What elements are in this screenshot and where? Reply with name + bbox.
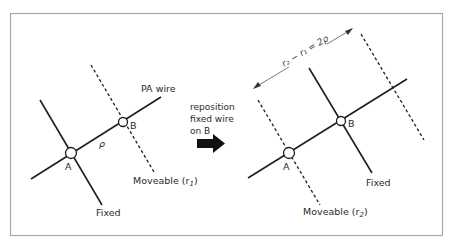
transition-line-2: fixed wire (190, 114, 234, 124)
node-b-circle (337, 117, 346, 126)
dimension-arrowhead-left (253, 82, 261, 89)
fixed-label: Fixed (366, 177, 391, 188)
node-a-label: A (283, 161, 290, 172)
node-b-label: B (130, 120, 137, 131)
right-panel: r₂ − r₁ = 2ρ B A Fixed Moveable (r2) (248, 28, 424, 219)
pa-wire (248, 79, 407, 178)
dimension-label: r₂ − r₁ = 2ρ (280, 33, 330, 69)
right-arrow-icon (197, 134, 225, 153)
transition: reposition fixed wire on B (190, 102, 235, 153)
diagram-frame (11, 14, 443, 236)
pa-wire (31, 97, 161, 179)
diagram-canvas: PA wire B ρ A Moveable (r1) Fixed reposi… (0, 0, 450, 246)
left-panel: PA wire B ρ A Moveable (r1) Fixed (31, 65, 198, 218)
pa-wire-label: PA wire (141, 83, 176, 94)
transition-line-3: on B (190, 126, 210, 136)
moveable-wire-far (361, 34, 424, 140)
dimension-arrowhead-right (345, 28, 353, 35)
spacing-rho-label: ρ (99, 138, 105, 149)
node-b-label: B (348, 118, 355, 129)
fixed-label: Fixed (96, 207, 121, 218)
node-a-label: A (65, 161, 72, 172)
moveable-r2-label: Moveable (r2) (303, 206, 368, 219)
node-a-circle (66, 148, 77, 159)
transition-line-1: reposition (190, 102, 235, 112)
node-b-circle (119, 118, 128, 127)
node-a-circle (284, 148, 295, 159)
moveable-r1-label: Moveable (r1) (133, 175, 198, 188)
